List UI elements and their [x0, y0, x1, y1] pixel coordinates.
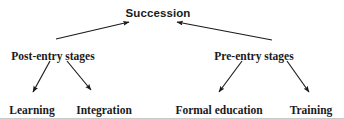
node-learning: Learning: [9, 105, 54, 117]
edge-pre-entry-to-formal-education: [219, 61, 242, 92]
node-integration: Integration: [76, 105, 132, 117]
node-formal-education: Formal education: [175, 105, 262, 117]
node-post-entry-stages: Post-entry stages: [11, 51, 94, 63]
edge-post-entry-to-learning: [33, 61, 50, 92]
edge-pre-entry-to-succession: [177, 22, 272, 40]
edge-post-entry-to-integration: [67, 61, 91, 90]
edge-pre-entry-to-training: [287, 61, 309, 92]
node-succession: Succession: [126, 8, 191, 20]
succession-diagram: Succession Post-entry stages Pre-entry s…: [0, 0, 344, 119]
node-training: Training: [290, 105, 333, 117]
node-pre-entry-stages: Pre-entry stages: [214, 51, 293, 63]
edge-post-entry-to-succession: [56, 22, 129, 39]
